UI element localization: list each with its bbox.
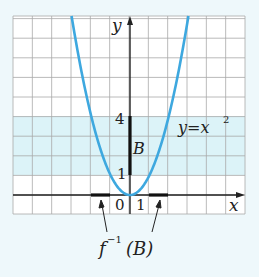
function-label-exponent: 2	[223, 114, 229, 125]
origin-label: 0	[115, 196, 125, 214]
preimage-label-exponent: −1	[107, 234, 122, 245]
preimage-label-arg: (B)	[126, 238, 153, 259]
y-one-label: 1	[117, 165, 127, 183]
x-one-label: 1	[136, 196, 146, 214]
y-four-label: 4	[115, 110, 125, 128]
preimage-diagram: y x 0 1 1 4 B y=x 2 f −1 (B)	[0, 0, 259, 277]
function-label-text: y=x	[177, 118, 209, 137]
set-b-label: B	[132, 139, 145, 158]
preimage-label: f −1 (B)	[97, 234, 153, 259]
y-axis-label: y	[111, 15, 122, 35]
x-axis-label: x	[229, 195, 239, 215]
